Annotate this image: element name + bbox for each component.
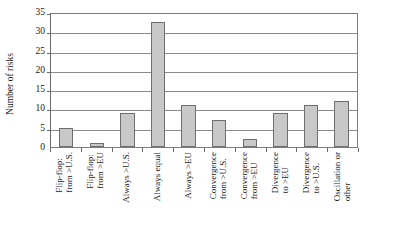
y-tick-label-20: 20	[36, 66, 46, 76]
x-category-label-line1: Always equal	[152, 152, 162, 201]
x-category-label-line1: Convergence	[209, 152, 219, 199]
x-category-label-line1: Always >U.S.	[121, 152, 131, 203]
x-category-label-line1: Oscillation or	[332, 152, 342, 201]
bar	[59, 128, 73, 147]
bar-slot	[51, 14, 82, 147]
bar-slot	[204, 14, 235, 147]
x-category-label-line1: Divergence	[270, 152, 280, 193]
y-tick-label-10: 10	[36, 105, 46, 115]
x-label-cell: Flip-flop:from >U.S.	[50, 152, 81, 234]
x-category-label: Convergencefrom >EU	[240, 152, 259, 199]
x-category-label-line2: from >U.S.	[219, 152, 229, 199]
y-tick-label-35: 35	[36, 8, 46, 18]
x-category-label-line2: to >EU	[281, 152, 291, 193]
x-category-label-line1: Divergence	[301, 152, 311, 193]
x-category-label-line2: from >EU	[96, 152, 106, 189]
x-label-cell: Divergenceto >EU	[266, 152, 297, 234]
bar	[151, 22, 165, 147]
x-category-label: Convergencefrom >U.S.	[210, 152, 229, 199]
x-category-label-line2: to >U.S.	[312, 152, 322, 193]
y-tick-label-15: 15	[36, 85, 46, 95]
x-label-cell: Divergenceto >U.S.	[296, 152, 327, 234]
x-category-label-line1: Convergence	[239, 152, 249, 199]
y-axis-tick-labels: 05101520253035	[20, 13, 48, 148]
bar	[243, 139, 257, 147]
bar-slot	[326, 14, 357, 147]
bar-slot	[112, 14, 143, 147]
y-tick-label-5: 5	[40, 124, 45, 134]
bar	[181, 105, 195, 147]
x-category-label: Always equal	[153, 152, 163, 201]
x-tick-mark	[358, 148, 359, 152]
y-axis-title-text: Number of risks	[5, 53, 15, 115]
plot-area	[50, 13, 358, 148]
x-category-label: Flip-flop:from >EU	[86, 152, 105, 189]
x-category-label: Always >U.S.	[122, 152, 132, 203]
x-category-label: Flip-flop:from >U.S.	[56, 152, 75, 193]
bar-slot	[82, 14, 113, 147]
x-category-label: Divergenceto >EU	[271, 152, 290, 193]
y-axis-title: Number of risks	[2, 28, 18, 140]
bar	[120, 113, 134, 147]
x-label-cell: Convergencefrom >U.S.	[204, 152, 235, 234]
x-label-cell: Always >U.S.	[112, 152, 143, 234]
bar-chart-figure: Number of risks 05101520253035 Flip-flop…	[0, 0, 397, 236]
bar-slot	[296, 14, 327, 147]
x-label-cell: Convergencefrom >EU	[235, 152, 266, 234]
x-axis-category-labels: Flip-flop:from >U.S.Flip-flop:from >EUAl…	[50, 152, 358, 234]
bar	[212, 120, 226, 147]
bar-slot	[143, 14, 174, 147]
x-category-label-line2: other	[343, 152, 353, 201]
x-category-label: Divergenceto >U.S.	[302, 152, 321, 193]
x-category-label-line1: Flip-flop:	[85, 154, 95, 189]
bar	[334, 101, 348, 147]
x-category-label: Oscillation orother	[333, 152, 352, 201]
x-category-label-line1: Flip-flop:	[55, 158, 65, 193]
x-label-cell: Always equal	[142, 152, 173, 234]
bar-series	[51, 14, 357, 147]
y-tick-label-0: 0	[40, 143, 45, 153]
bar	[90, 143, 104, 147]
y-tick-label-25: 25	[36, 47, 46, 57]
x-category-label-line2: from >EU	[250, 152, 260, 199]
x-category-label: Always >EU	[184, 152, 194, 199]
x-label-cell: Oscillation orother	[327, 152, 358, 234]
bar-slot	[265, 14, 296, 147]
bar-slot	[235, 14, 266, 147]
x-category-label-line2: from >U.S.	[65, 152, 75, 193]
bar	[304, 105, 318, 147]
bar	[273, 113, 287, 147]
x-label-cell: Always >EU	[173, 152, 204, 234]
x-category-label-line1: Always >EU	[183, 152, 193, 199]
x-label-cell: Flip-flop:from >EU	[81, 152, 112, 234]
bar-slot	[173, 14, 204, 147]
y-tick-label-30: 30	[36, 28, 46, 38]
